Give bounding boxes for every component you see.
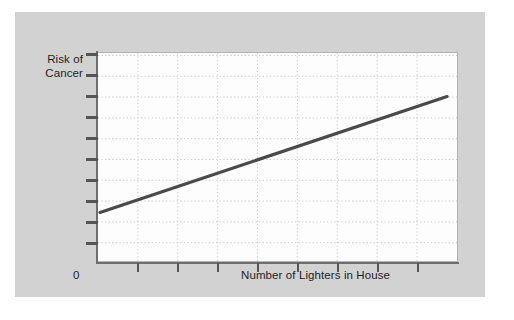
y-axis-tick xyxy=(86,116,98,119)
y-axis-tick xyxy=(86,95,98,98)
y-axis-tick xyxy=(86,221,98,224)
y-axis-tick xyxy=(86,53,98,56)
x-axis-spine xyxy=(96,262,459,264)
chart-area: Risk of Cancer Number of Lighters in Hou… xyxy=(15,12,485,297)
y-axis-tick xyxy=(86,158,98,161)
figure-card: Risk of Cancer Number of Lighters in Hou… xyxy=(15,12,485,297)
plot-panel xyxy=(97,52,458,262)
y-axis-tick xyxy=(86,179,98,182)
y-axis-tick xyxy=(86,242,98,245)
y-axis-tick xyxy=(86,137,98,140)
trend-line xyxy=(100,97,447,213)
y-axis-tick xyxy=(86,74,98,77)
x-axis-tick xyxy=(177,263,179,272)
series-line-risk-of-cancer xyxy=(98,53,457,261)
x-axis-label: Number of Lighters in House xyxy=(241,268,390,282)
origin-label: 0 xyxy=(73,268,79,282)
y-axis-label-line-2: Cancer xyxy=(15,66,83,80)
y-axis-tick xyxy=(86,200,98,203)
x-axis-tick xyxy=(217,263,219,272)
x-axis-tick xyxy=(137,263,139,272)
y-axis-label: Risk of Cancer xyxy=(15,52,83,80)
x-axis-tick xyxy=(417,263,419,272)
y-axis-label-line-1: Risk of xyxy=(15,52,83,66)
